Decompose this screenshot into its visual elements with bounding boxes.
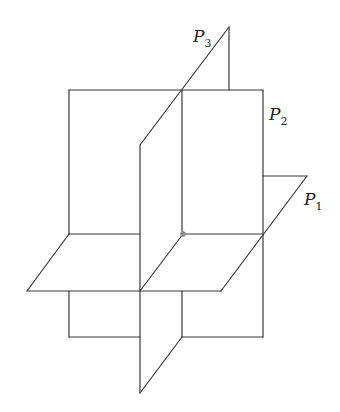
intersection-point bbox=[180, 231, 186, 237]
plane-p2 bbox=[69, 90, 263, 337]
label-p3: P3 bbox=[192, 26, 211, 50]
svg-text:P1: P1 bbox=[303, 189, 322, 213]
svg-text:P3: P3 bbox=[192, 26, 211, 50]
three-planes-diagram: P3 P2 P1 bbox=[0, 0, 340, 412]
label-p1: P1 bbox=[303, 189, 322, 213]
plane-p3 bbox=[140, 27, 229, 393]
label-p2: P2 bbox=[268, 104, 287, 128]
svg-text:P2: P2 bbox=[268, 104, 287, 128]
